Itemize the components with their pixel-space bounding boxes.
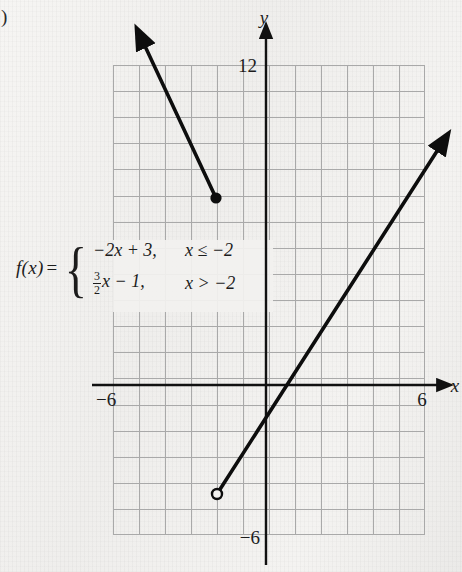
branch-left-ray [144,44,216,198]
y-tick-label-12: 12 [238,55,257,76]
y-tick-label-neg6: −6 [240,527,260,548]
closed-dot-endpoint [210,192,221,203]
case-expression: −2x + 3, [93,240,185,261]
case-list: −2x + 3, x ≤ −2 3 2 x − 1, x > −2 [93,240,235,296]
y-axis-label: y [258,7,269,28]
fraction-denominator: 2 [93,284,101,297]
fraction-numerator: 3 [93,270,101,284]
figure-container: ) [0,0,462,572]
function-name: f(x) [16,257,44,279]
case-expression: 3 2 x − 1, [93,270,185,296]
piecewise-function-formula: f(x) = { −2x + 3, x ≤ −2 3 2 x − 1, x > … [16,240,235,296]
case-row: 3 2 x − 1, x > −2 [93,270,235,296]
x-axis-label: x [450,375,460,396]
x-tick-label-neg6: −6 [96,389,116,410]
x-tick-label-6: 6 [417,389,427,410]
open-dot-endpoint [212,489,222,499]
equals-sign: = [47,257,58,279]
branch-right-ray [217,148,439,494]
case-row: −2x + 3, x ≤ −2 [93,240,235,261]
case-condition: x ≤ −2 [185,240,233,261]
fraction: 3 2 [93,270,101,296]
case-condition: x > −2 [185,273,235,294]
case-expression-rest: x − 1, [102,271,145,291]
